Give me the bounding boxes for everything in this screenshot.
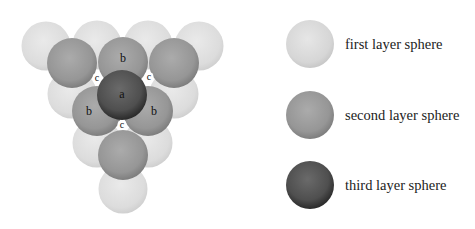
legend-item-first-layer: first layer sphere <box>285 17 442 71</box>
position-label-c: c <box>147 71 152 82</box>
position-label-a: a <box>119 87 125 101</box>
legend-label: second layer sphere <box>345 107 459 124</box>
second-layer-sphere <box>149 38 199 88</box>
position-label-b: b <box>86 104 92 118</box>
first-layer-sphere-icon <box>285 19 335 69</box>
legend-label: third layer sphere <box>345 177 446 194</box>
position-label-b: b <box>151 104 157 118</box>
position-label-c: c <box>120 119 125 130</box>
position-label-b: b <box>120 51 126 65</box>
position-label-c: c <box>95 72 100 83</box>
legend-item-third-layer: third layer sphere <box>285 158 446 212</box>
third-layer-sphere-icon <box>285 160 335 210</box>
second-layer-sphere-icon <box>285 90 335 140</box>
legend-item-second-layer: second layer sphere <box>285 88 459 142</box>
second-layer-sphere <box>47 38 97 88</box>
second-layer-sphere <box>98 130 148 180</box>
legend-label: first layer sphere <box>345 36 442 53</box>
sphere-packing-diagram: bccabbc <box>0 0 250 229</box>
